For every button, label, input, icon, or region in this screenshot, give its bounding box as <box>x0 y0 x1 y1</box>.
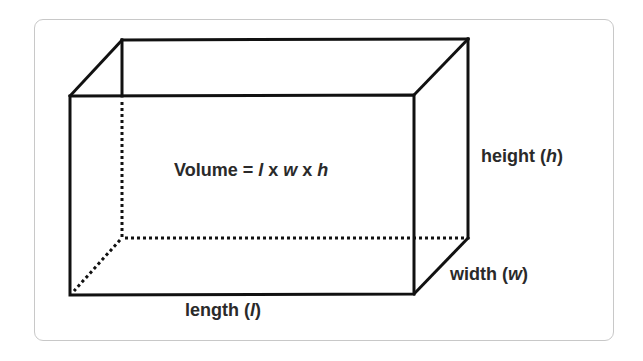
formula-times-1: x <box>263 160 283 180</box>
hidden-edges <box>74 102 466 291</box>
height-label-var: h <box>546 146 557 166</box>
height-label: height (h) <box>481 147 563 165</box>
width-label-var: w <box>508 264 522 284</box>
width-label: width (w) <box>450 265 528 283</box>
width-label-close: ) <box>522 264 528 284</box>
formula-times-2: x <box>297 160 317 180</box>
width-label-word: width ( <box>450 264 508 284</box>
rectangular-prism-figure <box>0 0 643 361</box>
formula-prefix: Volume = <box>174 160 258 180</box>
height-label-close: ) <box>557 146 563 166</box>
hidden-edge-bottom-left-depth <box>74 240 120 291</box>
edge-back-top <box>122 39 468 40</box>
length-label: length (l) <box>185 301 261 319</box>
length-label-close: ) <box>255 300 261 320</box>
formula-var-height: h <box>317 160 328 180</box>
formula-var-width: w <box>283 160 297 180</box>
length-label-word: length ( <box>185 300 250 320</box>
volume-formula: Volume = l x w x h <box>174 161 328 179</box>
edge-top-right-depth <box>414 39 468 95</box>
edge-top-left-depth <box>70 40 122 96</box>
height-label-word: height ( <box>481 146 546 166</box>
